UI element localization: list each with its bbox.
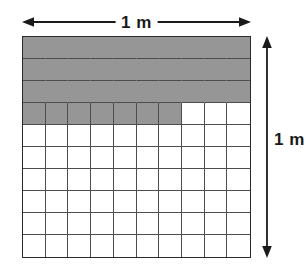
grid-cell: [91, 169, 114, 191]
grid-cell: [159, 191, 182, 213]
grid-cell: [114, 169, 137, 191]
grid-cell: [159, 81, 182, 103]
grid-cell: [114, 37, 137, 59]
grid-cell: [46, 125, 69, 147]
grid-cell: [182, 235, 205, 257]
grid-cell: [227, 59, 250, 81]
arrow-right-icon: [239, 17, 251, 27]
grid-cell: [114, 59, 137, 81]
grid-cell: [137, 37, 160, 59]
grid-cell: [137, 213, 160, 235]
grid-cell: [182, 103, 205, 125]
grid-cell: [46, 103, 69, 125]
grid-cell: [46, 81, 69, 103]
grid-cell: [114, 81, 137, 103]
grid-cell: [114, 147, 137, 169]
grid-cell: [91, 103, 114, 125]
grid-cell: [23, 147, 46, 169]
grid-cell: [227, 191, 250, 213]
grid-cell: [91, 147, 114, 169]
grid-cell: [68, 191, 91, 213]
grid-cell: [159, 147, 182, 169]
grid-cell: [182, 59, 205, 81]
grid-cell: [159, 213, 182, 235]
grid-cell: [159, 103, 182, 125]
grid-cell: [114, 191, 137, 213]
grid-cell: [46, 37, 69, 59]
grid-cell: [114, 103, 137, 125]
grid-cell: [205, 103, 228, 125]
grid-cell: [91, 235, 114, 257]
grid-cell: [23, 235, 46, 257]
grid-cell: [137, 103, 160, 125]
grid-cell: [68, 103, 91, 125]
grid-cell: [137, 81, 160, 103]
grid-cell: [137, 235, 160, 257]
grid-cell: [227, 125, 250, 147]
arrow-left-icon: [22, 17, 34, 27]
grid-cell: [46, 147, 69, 169]
grid-cell: [68, 37, 91, 59]
grid-cell: [46, 59, 69, 81]
grid-cell: [182, 37, 205, 59]
grid-cell: [68, 213, 91, 235]
grid-cell: [227, 169, 250, 191]
grid-cell: [182, 213, 205, 235]
grid-cell: [205, 147, 228, 169]
grid-cell: [23, 191, 46, 213]
grid-cell: [137, 59, 160, 81]
grid-cell: [68, 59, 91, 81]
grid-cell: [159, 235, 182, 257]
grid-cell: [182, 125, 205, 147]
grid-cell: [23, 81, 46, 103]
right-dimension-label: 1 m: [274, 131, 305, 148]
grid-cell: [182, 81, 205, 103]
grid-cell: [137, 169, 160, 191]
grid-cell: [137, 125, 160, 147]
grid-cell: [205, 169, 228, 191]
grid-cell: [205, 125, 228, 147]
arrow-up-icon: [262, 36, 272, 48]
grid-cell: [227, 213, 250, 235]
grid-cell: [91, 125, 114, 147]
grid-cell: [227, 37, 250, 59]
grid-cell: [137, 147, 160, 169]
grid-cell: [91, 59, 114, 81]
grid-cell: [23, 169, 46, 191]
grid-cell: [114, 213, 137, 235]
grid-cell: [159, 125, 182, 147]
grid-cell: [23, 37, 46, 59]
grid-cell: [159, 37, 182, 59]
grid-cell: [182, 169, 205, 191]
grid-cell: [227, 147, 250, 169]
unit-square-grid: [22, 36, 251, 258]
grid-cell: [182, 147, 205, 169]
grid-cell: [23, 59, 46, 81]
grid-cell: [182, 191, 205, 213]
grid-cell: [91, 191, 114, 213]
grid-cell: [68, 125, 91, 147]
grid-cell: [68, 169, 91, 191]
grid-cell: [227, 81, 250, 103]
grid-cell: [46, 191, 69, 213]
top-dimension-label: 1 m: [115, 14, 158, 31]
grid-cell: [68, 147, 91, 169]
grid-cell: [114, 125, 137, 147]
top-dimension-arrow: 1 m: [22, 11, 251, 33]
unit-square-area-figure: 1 m 1 m: [0, 0, 306, 278]
grid-cell: [91, 81, 114, 103]
arrow-down-icon: [262, 246, 272, 258]
grid-cell: [46, 235, 69, 257]
grid-cell: [205, 37, 228, 59]
grid-cell: [205, 213, 228, 235]
grid-cell: [205, 191, 228, 213]
grid-cell: [114, 235, 137, 257]
grid-cell: [227, 103, 250, 125]
grid-cell: [68, 235, 91, 257]
grid-cell: [91, 213, 114, 235]
grid-cell: [159, 59, 182, 81]
grid-cell: [205, 235, 228, 257]
grid-cell: [91, 37, 114, 59]
grid-cell: [205, 59, 228, 81]
grid-cell: [159, 169, 182, 191]
